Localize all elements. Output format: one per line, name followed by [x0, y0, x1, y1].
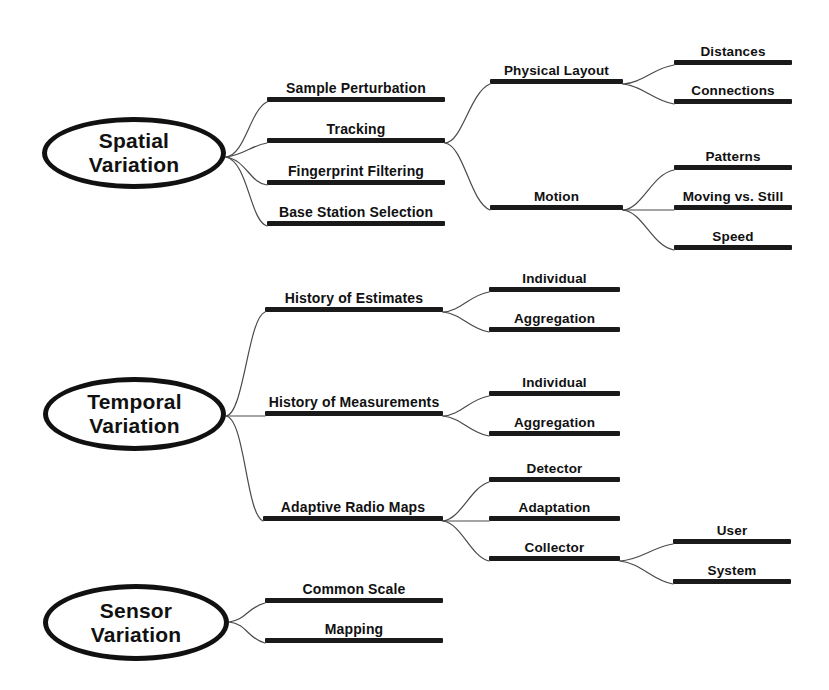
branch-bar	[490, 79, 623, 84]
connector-line	[623, 210, 674, 250]
branch-label: Aggregation	[489, 415, 620, 430]
branch-detector[interactable]: Detector	[489, 456, 620, 482]
branch-estimates-individual[interactable]: Individual	[489, 266, 620, 292]
branch-label: Connections	[674, 83, 792, 98]
branch-label: Collector	[489, 540, 620, 555]
root-node-spatial[interactable]: Spatial Variation	[42, 117, 226, 189]
branch-bar	[674, 60, 792, 65]
branch-tracking[interactable]: Tracking	[267, 117, 445, 143]
connector-line	[226, 143, 267, 157]
connector-line	[226, 416, 263, 521]
branch-bar	[674, 99, 792, 104]
branch-estimates-aggregation[interactable]: Aggregation	[489, 306, 620, 332]
branch-adaptation[interactable]: Adaptation	[489, 495, 620, 521]
connector-line	[623, 170, 674, 210]
connector-line	[623, 65, 674, 84]
branch-bar	[489, 431, 620, 436]
branch-bar	[674, 245, 792, 250]
connector-line	[443, 482, 489, 521]
connector-line	[443, 312, 489, 332]
branch-label: Individual	[489, 271, 620, 286]
branch-fingerprint-filtering[interactable]: Fingerprint Filtering	[267, 159, 445, 185]
connector-line	[226, 157, 267, 226]
branch-bar	[674, 205, 792, 210]
branch-history-of-measurements[interactable]: History of Measurements	[265, 390, 443, 416]
branch-label: Adaptive Radio Maps	[263, 499, 443, 515]
branch-label: Speed	[674, 229, 792, 244]
connector-line	[226, 157, 267, 185]
branch-speed[interactable]: Speed	[674, 224, 792, 250]
branch-label: Individual	[489, 375, 620, 390]
branch-label: Mapping	[265, 621, 443, 637]
branch-label: Sample Perturbation	[267, 80, 445, 96]
connector-line	[229, 603, 265, 622]
branch-patterns[interactable]: Patterns	[674, 144, 792, 170]
mind-map-canvas: Spatial VariationTemporal VariationSenso…	[0, 0, 829, 690]
branch-bar	[490, 205, 623, 210]
branch-label: History of Measurements	[265, 394, 443, 410]
root-node-label: Sensor Variation	[91, 599, 182, 646]
branch-common-scale[interactable]: Common Scale	[265, 577, 443, 603]
branch-user[interactable]: User	[673, 518, 791, 544]
branch-label: Patterns	[674, 149, 792, 164]
branch-bar	[263, 516, 443, 521]
branch-system[interactable]: System	[673, 558, 791, 584]
branch-label: Tracking	[267, 121, 445, 137]
branch-label: User	[673, 523, 791, 538]
branch-measurements-individual[interactable]: Individual	[489, 370, 620, 396]
root-node-label: Temporal Variation	[87, 390, 182, 437]
connector-line	[620, 561, 673, 584]
branch-bar	[267, 138, 445, 143]
branch-label: Physical Layout	[490, 63, 623, 78]
root-node-temporal[interactable]: Temporal Variation	[43, 377, 226, 451]
branch-connections[interactable]: Connections	[674, 78, 792, 104]
connector-line	[443, 292, 489, 312]
branch-bar	[265, 411, 443, 416]
branch-bar	[265, 638, 443, 643]
branch-distances[interactable]: Distances	[674, 39, 792, 65]
branch-measurements-aggregation[interactable]: Aggregation	[489, 410, 620, 436]
connector-line	[443, 416, 489, 436]
branch-bar	[267, 221, 445, 226]
branch-bar	[265, 307, 443, 312]
branch-adaptive-radio-maps[interactable]: Adaptive Radio Maps	[263, 495, 443, 521]
connector-line	[445, 143, 490, 210]
branch-label: Base Station Selection	[267, 204, 445, 220]
branch-bar	[489, 556, 620, 561]
branch-label: Common Scale	[265, 581, 443, 597]
branch-physical-layout[interactable]: Physical Layout	[490, 58, 623, 84]
branch-bar	[267, 180, 445, 185]
connector-line	[445, 84, 490, 143]
branch-bar	[489, 477, 620, 482]
connector-line	[226, 312, 265, 416]
root-node-sensor[interactable]: Sensor Variation	[43, 584, 229, 661]
branch-label: Fingerprint Filtering	[267, 163, 445, 179]
branch-mapping[interactable]: Mapping	[265, 617, 443, 643]
branch-moving-vs-still[interactable]: Moving vs. Still	[674, 184, 792, 210]
branch-bar	[673, 539, 791, 544]
connector-line	[620, 544, 673, 561]
branch-label: Distances	[674, 44, 792, 59]
branch-bar	[489, 391, 620, 396]
branch-bar	[674, 165, 792, 170]
branch-sample-perturbation[interactable]: Sample Perturbation	[267, 76, 445, 102]
connector-line	[623, 84, 674, 104]
branch-bar	[489, 516, 620, 521]
branch-label: Detector	[489, 461, 620, 476]
connector-line	[443, 521, 489, 561]
branch-bar	[673, 579, 791, 584]
branch-label: Motion	[490, 189, 623, 204]
branch-collector[interactable]: Collector	[489, 535, 620, 561]
connector-line	[226, 102, 267, 157]
branch-label: System	[673, 563, 791, 578]
connector-line	[229, 622, 265, 643]
branch-motion[interactable]: Motion	[490, 184, 623, 210]
connector-line	[443, 396, 489, 416]
branch-history-of-estimates[interactable]: History of Estimates	[265, 286, 443, 312]
branch-label: History of Estimates	[265, 290, 443, 306]
branch-base-station-selection[interactable]: Base Station Selection	[267, 200, 445, 226]
branch-bar	[489, 327, 620, 332]
branch-bar	[489, 287, 620, 292]
branch-label: Aggregation	[489, 311, 620, 326]
branch-label: Adaptation	[489, 500, 620, 515]
